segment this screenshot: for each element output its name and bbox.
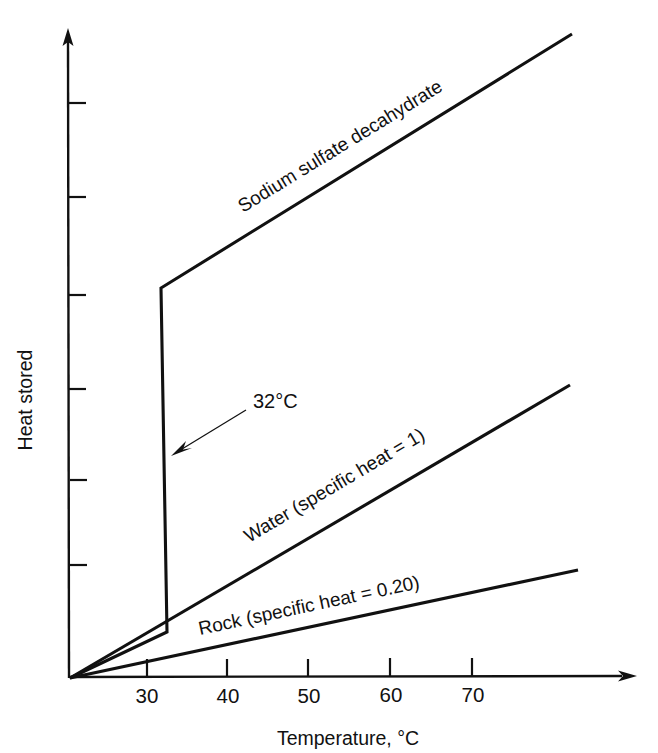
x-tick-label-40: 40 <box>216 684 239 707</box>
x-tick-label-60: 60 <box>379 683 402 706</box>
series-label-rock: Rock (specific heat = 0.20) <box>196 571 421 638</box>
x-axis-title: Temperature, °C <box>277 727 419 749</box>
y-axis-line <box>68 38 69 678</box>
y-axis <box>63 28 88 678</box>
phase-change-arrow-shaft <box>182 410 246 449</box>
series-line-water <box>70 385 570 678</box>
x-tick-label-30: 30 <box>135 684 158 707</box>
series-line-rock <box>70 570 578 678</box>
y-axis-title: Heat stored <box>14 350 36 451</box>
phase-change-arrowhead <box>171 441 192 456</box>
x-axis-line <box>69 676 622 677</box>
phase-change-label: 32°C <box>253 390 298 412</box>
phase-change-annotation: 32°C <box>171 390 298 456</box>
chart-canvas: 30 40 50 60 70 Temperature, °C Heat stor… <box>0 0 658 753</box>
x-tick-label-70: 70 <box>461 683 484 706</box>
chart-figure: 30 40 50 60 70 Temperature, °C Heat stor… <box>0 0 658 753</box>
series-label-sodium-sulfate-decahydrate: Sodium sulfate decahydrate <box>234 75 446 216</box>
series-line-sodium-sulfate-decahydrate <box>70 34 572 678</box>
x-tick-label-50: 50 <box>297 684 320 707</box>
